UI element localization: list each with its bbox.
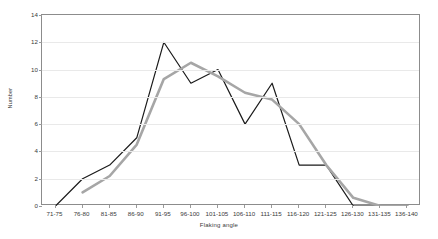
x-tick-label: 136-140 bbox=[395, 210, 418, 217]
x-axis-title: Flaking angle bbox=[0, 222, 438, 228]
y-tick-mark bbox=[39, 179, 42, 180]
x-tick-label: 106-110 bbox=[233, 210, 255, 217]
x-tick-label: 101-105 bbox=[206, 210, 229, 217]
x-tick-label: 76-80 bbox=[74, 210, 90, 217]
x-tick-label: 96-100 bbox=[180, 210, 199, 217]
x-tick-mark bbox=[271, 205, 272, 208]
x-tick-mark bbox=[244, 205, 245, 208]
x-tick-label: 126-130 bbox=[341, 210, 364, 217]
gridline bbox=[42, 151, 419, 152]
x-tick-label: 71-75 bbox=[47, 210, 63, 217]
x-axis-tick-labels: 71-7576-8081-8586-9091-9596-100101-10510… bbox=[0, 210, 438, 222]
x-tick-label: 86-90 bbox=[128, 210, 144, 217]
y-tick-label: 2 bbox=[35, 174, 38, 181]
y-tick-mark bbox=[39, 151, 42, 152]
gridline bbox=[42, 70, 419, 71]
y-tick-mark bbox=[39, 15, 42, 16]
x-tick-mark bbox=[217, 205, 218, 208]
y-tick-mark bbox=[39, 124, 42, 125]
x-tick-label: 131-135 bbox=[368, 210, 391, 217]
x-tick-mark bbox=[82, 205, 83, 208]
gridline bbox=[42, 42, 419, 43]
y-tick-label: 10 bbox=[31, 65, 38, 72]
y-tick-label: 14 bbox=[31, 11, 38, 18]
y-tick-label: 12 bbox=[31, 38, 38, 45]
x-tick-mark bbox=[352, 205, 353, 208]
y-tick-mark bbox=[39, 42, 42, 43]
plot-area bbox=[41, 14, 420, 205]
x-tick-label: 121-125 bbox=[314, 210, 337, 217]
y-axis-tick-labels: 02468101214 bbox=[20, 0, 38, 239]
flaking-angle-line-chart: Number 02468101214 71-7576-8081-8586-909… bbox=[0, 0, 438, 239]
x-tick-mark bbox=[136, 205, 137, 208]
y-tick-label: 6 bbox=[35, 120, 38, 127]
gridline bbox=[42, 179, 419, 180]
x-tick-mark bbox=[379, 205, 380, 208]
y-tick-mark bbox=[39, 70, 42, 71]
gridline bbox=[42, 124, 419, 125]
y-axis-title: Number bbox=[7, 74, 13, 122]
y-tick-mark bbox=[39, 97, 42, 98]
gridline bbox=[42, 97, 419, 98]
x-axis-tick-marks bbox=[41, 205, 420, 209]
x-tick-label: 111-115 bbox=[260, 210, 281, 217]
series-line-gray-series bbox=[83, 63, 408, 206]
y-tick-label: 4 bbox=[35, 147, 38, 154]
x-tick-mark bbox=[55, 205, 56, 208]
x-tick-label: 116-120 bbox=[287, 210, 309, 217]
x-tick-mark bbox=[406, 205, 407, 208]
x-tick-label: 81-85 bbox=[101, 210, 117, 217]
series-lines bbox=[42, 15, 421, 206]
x-tick-label: 91-95 bbox=[155, 210, 171, 217]
y-tick-label: 8 bbox=[35, 92, 38, 99]
y-tick-label: 0 bbox=[35, 202, 38, 209]
x-tick-mark bbox=[163, 205, 164, 208]
x-tick-mark bbox=[190, 205, 191, 208]
x-tick-mark bbox=[298, 205, 299, 208]
x-tick-mark bbox=[325, 205, 326, 208]
x-tick-mark bbox=[109, 205, 110, 208]
